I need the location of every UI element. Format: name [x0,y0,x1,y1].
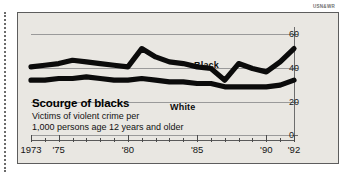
x-tick-1988 [239,138,240,142]
left-dotted-rule [4,12,6,172]
title-block: Scourge of blacks Victims of violent cri… [32,97,212,132]
x-tick-1985 [197,135,198,142]
x-axis-label-1985: '85 [191,144,203,155]
x-axis-label-1992: '92 [288,144,300,155]
x-tick-1992 [294,135,295,142]
chart-panel: USN&WR 60 40 20 0 [17,12,339,164]
chart-headline: Scourge of blacks [32,97,212,109]
x-tick-1990 [266,135,267,142]
x-tick-1984 [183,138,184,142]
x-tick-1983 [169,138,170,142]
x-tick-1986 [211,138,212,142]
x-axis-label-1975: '75 [52,144,64,155]
x-tick-1989 [252,138,253,142]
x-tick-1974 [45,138,46,142]
x-axis-label-1990: '90 [260,144,272,155]
x-tick-1991 [280,138,281,142]
x-tick-1980 [128,135,129,142]
series-line-black [31,49,294,81]
series-label-black: Black [194,60,219,70]
x-axis-label-1973: 1973 [20,144,41,155]
x-tick-1977 [86,138,87,142]
publication-credit: USN&WR [313,4,335,9]
x-tick-1987 [225,138,226,142]
chart-subtitle-line-2: 1,000 persons age 12 years and older [32,122,212,133]
x-tick-1978 [100,138,101,142]
x-axis [31,135,294,142]
chart-panel-inner: USN&WR 60 40 20 0 [18,13,338,163]
x-tick-1976 [73,138,74,142]
x-tick-1982 [156,138,157,142]
x-axis-label-1980: '80 [122,144,134,155]
chart-subtitle-line-1: Victims of violent crime per [32,111,212,122]
x-tick-1973 [31,135,32,142]
x-axis-baseline [31,140,294,141]
x-tick-1979 [114,138,115,142]
chart-figure: USN&WR 60 40 20 0 [0,0,343,176]
series-line-white [31,77,294,87]
x-tick-1981 [142,138,143,142]
x-tick-1975 [59,135,60,142]
